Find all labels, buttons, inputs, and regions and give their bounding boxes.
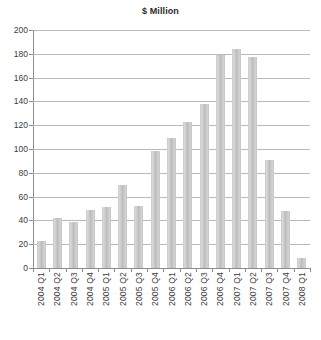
x-axis-tick-label: 2005 Q3 — [135, 272, 144, 306]
x-axis-tick-label: 2004 Q4 — [86, 272, 95, 306]
y-axis-tick-label: 20 — [1, 240, 28, 249]
x-axis-tick-label: 2007 Q4 — [282, 272, 291, 306]
bar — [297, 258, 306, 268]
y-axis-tick-label: 100 — [1, 145, 28, 154]
bar — [281, 211, 290, 268]
gridline — [33, 78, 310, 79]
x-axis-tick — [33, 268, 34, 272]
gridline — [33, 268, 310, 269]
x-axis-tick-label: 2006 Q4 — [216, 272, 225, 306]
y-axis-tick — [29, 149, 33, 150]
y-axis-tick — [29, 173, 33, 174]
y-axis-tick — [29, 30, 33, 31]
x-axis-tick-label: 2007 Q1 — [233, 272, 242, 306]
bar — [216, 55, 225, 268]
bar — [200, 104, 209, 268]
x-axis-tick-label: 2004 Q2 — [53, 272, 62, 306]
x-axis-tick — [245, 268, 246, 272]
bar-chart: $ Million 020406080100120140160180200 20… — [0, 0, 321, 340]
y-axis-tick-label: 40 — [1, 216, 28, 225]
x-axis-tick — [310, 268, 311, 272]
bar — [53, 218, 62, 268]
y-axis-labels: 020406080100120140160180200 — [0, 0, 28, 340]
x-axis-tick-label: 2007 Q3 — [265, 272, 274, 306]
y-axis-tick — [29, 78, 33, 79]
x-axis-tick-label: 2006 Q1 — [168, 272, 177, 306]
x-axis-tick — [147, 268, 148, 272]
x-axis-tick-label: 2004 Q1 — [37, 272, 46, 306]
bar — [248, 57, 257, 268]
x-axis-labels: 2004 Q12004 Q22004 Q32004 Q42005 Q12005 … — [33, 272, 310, 338]
x-axis-tick-label: 2005 Q2 — [119, 272, 128, 306]
gridline — [33, 125, 310, 126]
y-axis-tick-label: 120 — [1, 121, 28, 130]
x-axis-tick — [212, 268, 213, 272]
y-axis-tick-label: 180 — [1, 50, 28, 59]
y-axis-tick-label: 60 — [1, 192, 28, 201]
x-axis-tick-label: 2007 Q2 — [249, 272, 258, 306]
y-axis-tick — [29, 54, 33, 55]
bar — [232, 49, 241, 268]
bar — [183, 122, 192, 268]
x-axis-tick — [49, 268, 50, 272]
chart-title: $ Million — [0, 6, 321, 16]
gridline — [33, 54, 310, 55]
x-axis-tick-label: 2006 Q2 — [184, 272, 193, 306]
x-axis-tick — [294, 268, 295, 272]
bar — [151, 151, 160, 268]
y-axis-tick — [29, 125, 33, 126]
bar — [134, 206, 143, 268]
bar — [265, 160, 274, 268]
gridline — [33, 30, 310, 31]
x-axis-tick — [261, 268, 262, 272]
x-axis-tick — [98, 268, 99, 272]
x-axis-tick — [82, 268, 83, 272]
y-axis-tick — [29, 220, 33, 221]
x-axis-tick-label: 2008 Q1 — [298, 272, 307, 306]
x-axis-tick-label: 2005 Q4 — [151, 272, 160, 306]
gridline — [33, 101, 310, 102]
y-axis-tick-label: 160 — [1, 73, 28, 82]
y-axis-tick-label: 0 — [1, 264, 28, 273]
bar — [102, 207, 111, 268]
bar — [118, 185, 127, 268]
y-axis-tick-label: 80 — [1, 169, 28, 178]
x-axis-tick-label: 2005 Q1 — [102, 272, 111, 306]
y-axis-tick — [29, 197, 33, 198]
bar — [167, 138, 176, 268]
x-axis-tick — [229, 268, 230, 272]
x-axis-tick — [131, 268, 132, 272]
bar — [37, 241, 46, 268]
x-axis-tick — [66, 268, 67, 272]
plot-area — [33, 30, 310, 268]
y-axis-tick-label: 140 — [1, 97, 28, 106]
bar — [69, 222, 78, 268]
y-axis-tick — [29, 244, 33, 245]
x-axis-tick — [114, 268, 115, 272]
bar — [86, 210, 95, 268]
y-axis-tick-label: 200 — [1, 26, 28, 35]
x-axis-tick-label: 2006 Q3 — [200, 272, 209, 306]
y-axis-tick — [29, 101, 33, 102]
x-axis-tick — [180, 268, 181, 272]
x-axis-tick — [163, 268, 164, 272]
x-axis-tick-label: 2004 Q3 — [70, 272, 79, 306]
x-axis-tick — [196, 268, 197, 272]
x-axis-tick — [277, 268, 278, 272]
